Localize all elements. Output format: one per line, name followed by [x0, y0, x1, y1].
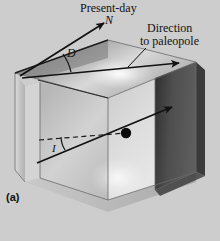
inclination-label: I — [52, 143, 56, 155]
panel-label: (a) — [6, 192, 19, 204]
paleopole-direction-label-line2: to paleopole — [140, 35, 199, 48]
cube-left-face — [15, 73, 25, 182]
declination-label: D — [67, 47, 76, 60]
cube-body — [15, 40, 205, 212]
front-face-specular — [90, 158, 146, 198]
north-label: N — [105, 14, 113, 27]
cube-right-face-edge — [196, 62, 205, 176]
paleopole-direction-label-line1: Direction — [147, 22, 192, 35]
cube-right-face — [155, 62, 196, 190]
sample-point-dot — [121, 128, 131, 138]
cube-left-face-outer — [25, 82, 40, 182]
